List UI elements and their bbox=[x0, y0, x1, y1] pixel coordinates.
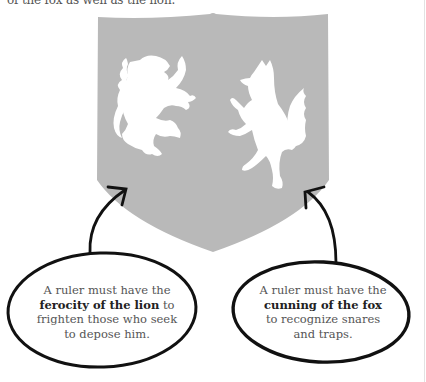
lion-callout-emphasis: ferocity of the lion bbox=[40, 298, 160, 312]
fox-callout-line-3: to recognize snares bbox=[243, 312, 403, 327]
lion-callout-line-2: ferocity of the lion to bbox=[22, 298, 192, 313]
lion-callout-line-1: A ruler must have the bbox=[22, 283, 192, 298]
lion-callout-after-emphasis: to bbox=[159, 298, 174, 312]
fox-callout-text: A ruler must have the cunning of the fox… bbox=[243, 283, 403, 341]
fox-callout-line-1: A ruler must have the bbox=[243, 283, 403, 298]
fox-callout-emphasis: cunning of the fox bbox=[264, 298, 382, 312]
fox-callout-line-2: cunning of the fox bbox=[243, 298, 403, 313]
lion-callout-line-4: to depose him. bbox=[22, 327, 192, 342]
lion-callout-text: A ruler must have the ferocity of the li… bbox=[22, 283, 192, 341]
fox-callout-line-4: and traps. bbox=[243, 327, 403, 342]
lion-callout-line-3: frighten those who seek bbox=[22, 312, 192, 327]
